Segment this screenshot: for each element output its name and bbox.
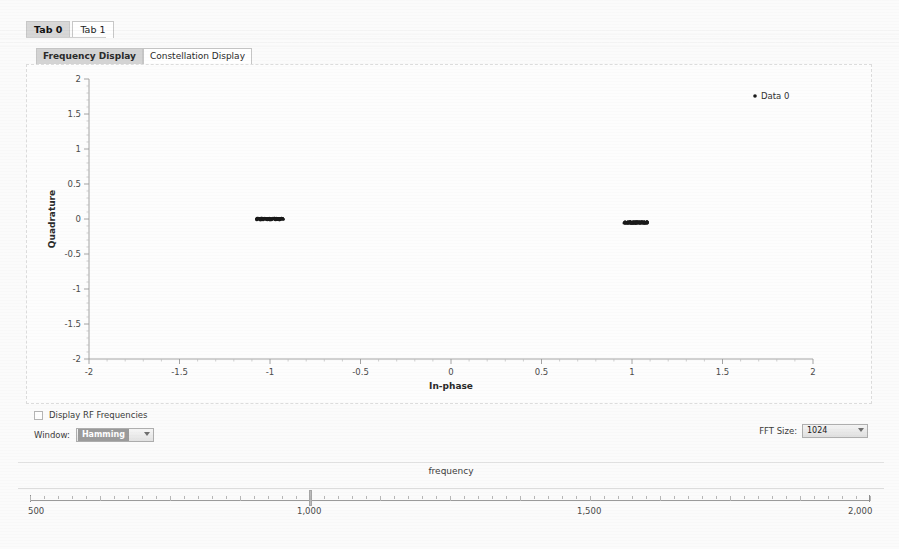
constellation-plot-canvas[interactable]: -2-1.5-1-0.500.511.52-2-1.5-1-0.500.511.… (27, 65, 873, 405)
y-tick-label: -0.5 (64, 249, 81, 259)
x-tick-label: 1.5 (716, 367, 730, 377)
frequency-slider-tick (128, 496, 129, 499)
frequency-slider-tick (492, 496, 493, 499)
frequency-slider-tick (786, 496, 787, 499)
frequency-slider-tick (576, 496, 577, 499)
frequency-slider-tick (646, 496, 647, 499)
x-tick-label: -1.5 (171, 367, 188, 377)
frequency-slider-tick (772, 496, 773, 499)
frequency-slider-tick (394, 496, 395, 499)
x-tick-label: 0 (448, 367, 453, 377)
frequency-slider-label: frequency (18, 466, 884, 476)
legend: Data 0 (753, 91, 789, 101)
frequency-slider-tick (408, 496, 409, 499)
constellation-plot-frame[interactable]: -2-1.5-1-0.500.511.52-2-1.5-1-0.500.511.… (26, 64, 872, 404)
frequency-slider-tick (184, 496, 185, 499)
frequency-slider-tick (170, 496, 171, 501)
frequency-slider-tick (268, 496, 269, 499)
frequency-slider-tick (58, 496, 59, 499)
data-point (635, 221, 638, 224)
data-point (646, 221, 649, 224)
plot-controls: Display RF Frequencies Window: Hamming F… (26, 410, 872, 455)
frequency-slider-tick (44, 496, 45, 499)
frequency-slider-tick (828, 496, 829, 499)
frequency-slider-tick (758, 496, 759, 499)
window-select[interactable]: Hamming (76, 428, 154, 442)
display-panel: Frequency Display Constellation Display … (26, 48, 872, 455)
frequency-slider-tick (156, 496, 157, 499)
display-rf-frequencies-checkbox[interactable] (34, 411, 43, 420)
window-tab-1[interactable]: Tab 1 (72, 21, 113, 38)
data-point (624, 220, 627, 223)
fft-size-select[interactable]: 1024 (802, 424, 868, 438)
y-tick-label: 2 (76, 74, 81, 84)
frequency-slider-tick (618, 496, 619, 499)
y-tick-label: -2 (73, 354, 81, 364)
chevron-down-icon (144, 432, 150, 436)
frequency-slider-tick (660, 496, 661, 501)
data-point (268, 218, 271, 221)
background-texture-band (0, 30, 899, 48)
frequency-slider-tick (114, 496, 115, 499)
frequency-slider-tick (226, 496, 227, 499)
frequency-slider-tick (716, 496, 717, 499)
data-point (260, 217, 263, 220)
y-tick-label: 0.5 (67, 179, 81, 189)
frequency-slider-tick (702, 496, 703, 499)
frequency-slider-upper-track (18, 488, 884, 489)
data-point (273, 217, 276, 220)
frequency-slider-tick (296, 496, 297, 499)
frequency-slider-tick (478, 496, 479, 499)
y-tick-label: 1 (76, 144, 81, 154)
x-tick-label: -1 (266, 367, 274, 377)
window-tab-0-label: Tab 0 (34, 24, 62, 35)
frequency-slider-tick (324, 496, 325, 499)
frequency-slider-tick (688, 496, 689, 499)
x-tick-label: -2 (85, 367, 93, 377)
frequency-slider-tick (212, 496, 213, 499)
frequency-slider-tick (338, 496, 339, 499)
data-point (643, 220, 646, 223)
fft-size-row: FFT Size: 1024 (759, 424, 868, 438)
frequency-slider-tick (814, 496, 815, 499)
frequency-slider-tick (72, 496, 73, 499)
display-rf-frequencies-row[interactable]: Display RF Frequencies (34, 410, 147, 420)
data-point (257, 217, 260, 220)
window-label: Window: (34, 430, 70, 440)
window-tab-0[interactable]: Tab 0 (26, 21, 70, 38)
frequency-slider-tick (520, 496, 521, 501)
frequency-slider-tick-label: 1,000 (297, 506, 321, 516)
frequency-slider-tick (730, 496, 731, 501)
tab-strip-divider (26, 37, 106, 38)
tab-constellation-display[interactable]: Constellation Display (143, 48, 252, 64)
frequency-slider-tick (870, 496, 871, 501)
fft-size-label: FFT Size: (759, 426, 797, 436)
frequency-slider-tick (464, 496, 465, 499)
frequency-slider-tick (380, 496, 381, 501)
frequency-slider-tick (590, 496, 591, 501)
window-tab-1-label: Tab 1 (80, 24, 105, 35)
window-tab-bar: Tab 0 Tab 1 (26, 21, 114, 38)
window-selector-row: Window: Hamming (34, 428, 154, 442)
tab-frequency-display[interactable]: Frequency Display (36, 48, 143, 64)
frequency-slider-tick (562, 496, 563, 499)
tab-frequency-display-label: Frequency Display (43, 51, 136, 61)
data-point (629, 221, 632, 224)
y-tick-label: -1 (73, 284, 81, 294)
frequency-slider-tick (352, 496, 353, 499)
x-tick-label: -0.5 (352, 367, 369, 377)
frequency-slider-tick (744, 496, 745, 499)
legend-marker (753, 94, 757, 98)
window-select-value: Hamming (78, 429, 129, 441)
chevron-down-icon (858, 428, 864, 432)
application-window: Tab 0 Tab 1 Frequency Display Constellat… (0, 0, 899, 549)
bottom-divider (18, 462, 884, 463)
y-tick-label: 1.5 (67, 109, 81, 119)
frequency-slider-tick (674, 496, 675, 499)
frequency-slider-tick (198, 496, 199, 499)
x-tick-label: 1 (629, 367, 634, 377)
constellation-scatter-svg[interactable]: -2-1.5-1-0.500.511.52-2-1.5-1-0.500.511.… (27, 65, 873, 405)
data-point (277, 217, 280, 220)
frequency-slider-tick (800, 496, 801, 501)
frequency-slider-tick (506, 496, 507, 499)
